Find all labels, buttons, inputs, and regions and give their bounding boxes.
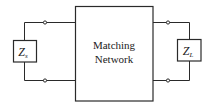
- source-bottom-terminal: [43, 79, 46, 82]
- load-top-terminal: [166, 21, 169, 24]
- source-circuit: Zs: [14, 21, 76, 82]
- load-bottom-terminal: [166, 79, 169, 82]
- load-top-wire: [153, 23, 190, 41]
- load-circuit: ZL: [153, 21, 201, 82]
- load-bottom-wire: [153, 61, 190, 81]
- source-top-wire: [25, 23, 76, 41]
- matching-network-label-line2: Network: [95, 53, 134, 65]
- matching-network-label-line1: Matching: [93, 39, 136, 51]
- source-top-terminal: [43, 21, 46, 24]
- matching-network-block: Matching Network: [76, 7, 154, 102]
- source-bottom-wire: [25, 62, 76, 81]
- matching-network-diagram: Zs Matching Network ZL: [0, 0, 211, 110]
